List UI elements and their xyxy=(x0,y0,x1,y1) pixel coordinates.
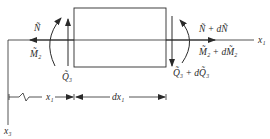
moment-left-curved-arrow-icon xyxy=(50,18,61,66)
beam-element xyxy=(74,8,166,67)
dimension-lines: x₁ dx₁ xyxy=(9,92,166,102)
x3-axis-label: x₃ xyxy=(3,126,12,136)
right-face-forces: Ñ + dÑ M̃₂ + dM̃₂ Q̃₃ + dQ̃₃ xyxy=(166,16,238,78)
moment-right-curved-arrow-icon xyxy=(180,20,190,63)
shear-force-right-label: Q̃₃ + dQ̃₃ xyxy=(173,66,209,78)
axial-force-right-label: Ñ + dÑ xyxy=(198,23,228,34)
beam-element-diagram: x₁ x₃ Ñ M̃₂ Q̃₃ Ñ + dÑ M̃₂ + dM̃₂ Q̃₃ + … xyxy=(0,0,270,139)
left-face-forces: Ñ M̃₂ Q̃₃ xyxy=(29,18,74,82)
shear-force-left-label: Q̃₃ xyxy=(62,70,72,82)
moment-left-label: M̃₂ xyxy=(29,47,42,59)
dx1-dimension-label: dx₁ xyxy=(112,92,124,102)
moment-right-label: M̃₂ + dM̃₂ xyxy=(198,45,238,57)
x1-axis-label: x₁ xyxy=(257,35,266,45)
break-symbol-icon xyxy=(19,93,42,101)
x1-dimension-label: x₁ xyxy=(45,92,54,102)
axial-force-left-label: Ñ xyxy=(33,22,41,33)
